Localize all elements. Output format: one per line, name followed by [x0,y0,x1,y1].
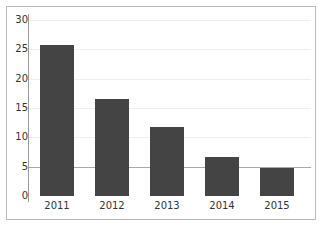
y-tick-label-10: 10 [4,132,28,142]
y-tick-label-0: 0 [4,191,28,201]
bar-chart: 30 25 20 15 10 5 0 2011 2012 2013 2014 2… [0,0,323,227]
y-tick-label-20: 20 [4,74,28,84]
y-tick-label-15: 15 [4,103,28,113]
x-tick-label-2015: 2015 [255,200,299,211]
x-tick-label-2013: 2013 [145,200,189,211]
bar-2011[interactable] [40,45,74,196]
y-tick-label-25: 25 [4,44,28,54]
bar-2012[interactable] [95,99,129,196]
bar-2015[interactable] [260,168,294,196]
y-tick-label-5: 5 [4,162,28,172]
bar-2013[interactable] [150,127,184,196]
gridline-30 [29,20,311,21]
x-tick-label-2011: 2011 [35,200,79,211]
bar-2014[interactable] [205,157,239,196]
y-axis-line [28,14,29,202]
y-tick-label-30: 30 [4,15,28,25]
x-tick-label-2014: 2014 [200,200,244,211]
x-tick-label-2012: 2012 [90,200,134,211]
